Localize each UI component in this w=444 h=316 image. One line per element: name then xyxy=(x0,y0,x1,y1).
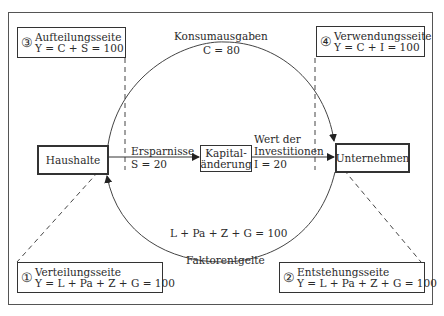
faktor-arc xyxy=(107,172,335,262)
konsum-label: Konsumausgaben xyxy=(174,31,268,42)
dashed-line-entstehung xyxy=(344,170,421,262)
konsum-arc xyxy=(108,42,334,145)
invest-value: I = 20 xyxy=(254,159,287,170)
number-4-icon: ④ xyxy=(320,35,332,48)
verwendungsseite-title: Verwendungsseite xyxy=(334,31,432,42)
unternehmen-label: Unternehmen xyxy=(336,152,410,164)
dashed-line-verteilung xyxy=(17,172,98,262)
sparen-value: S = 20 xyxy=(131,159,167,170)
number-2-icon: ② xyxy=(283,271,295,284)
verteilungsseite-box: ① Verteilungsseite Y = L + Pa + Z + G = … xyxy=(17,262,163,293)
entstehungsseite-title: Entstehungsseite xyxy=(297,267,437,278)
haushalte-label: Haushalte xyxy=(46,154,100,166)
invest-label-2: Investitionen xyxy=(254,146,324,157)
entstehungsseite-box: ② Entstehungsseite Y = L + Pa + Z + G = … xyxy=(279,262,425,293)
invest-label-1: Wert der xyxy=(254,134,301,145)
kapital-label-2: änderung xyxy=(200,159,251,170)
haushalte-node: Haushalte xyxy=(37,145,109,175)
kapitalaenderung-node: Kapital- änderung xyxy=(200,145,252,172)
verteilungsseite-title: Verteilungsseite xyxy=(35,267,175,278)
verwendungsseite-box: ④ Verwendungsseite Y = C + I = 100 xyxy=(316,26,425,57)
verwendungsseite-formula: Y = C + I = 100 xyxy=(334,42,432,53)
faktor-label: Faktorentgelte xyxy=(186,255,265,266)
number-3-icon: ③ xyxy=(21,36,33,49)
unternehmen-node: Unternehmen xyxy=(335,143,410,173)
kapital-label-1: Kapital- xyxy=(205,148,247,159)
entstehungsseite-formula: Y = L + Pa + Z + G = 100 xyxy=(297,278,437,289)
sparen-label: Ersparnisse xyxy=(131,146,194,157)
konsum-value: C = 80 xyxy=(203,45,240,56)
aufteilungsseite-title: Aufteilungsseite xyxy=(35,32,124,43)
aufteilungsseite-formula: Y = C + S = 100 xyxy=(35,43,124,54)
aufteilungsseite-box: ③ Aufteilungsseite Y = C + S = 100 xyxy=(17,27,126,58)
number-1-icon: ① xyxy=(21,271,33,284)
verteilungsseite-formula: Y = L + Pa + Z + G = 100 xyxy=(35,278,175,289)
faktor-value: L + Pa + Z + G = 100 xyxy=(170,228,287,239)
